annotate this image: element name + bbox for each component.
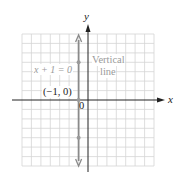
annotation-line: line [100, 66, 116, 78]
point-label: (−1, 0) [42, 86, 73, 98]
y-axis [86, 24, 91, 172]
point-marker [77, 136, 81, 140]
point-marker [77, 60, 81, 64]
y-axis-label: y [84, 10, 89, 22]
equation-label: x + 1 = 0 [33, 64, 73, 75]
annotation-vertical: Vertical [92, 54, 125, 66]
y-axis-arrow-icon [86, 24, 91, 32]
x-axis-label: x [168, 93, 173, 105]
coordinate-plane [0, 0, 179, 176]
origin-label: 0 [79, 100, 84, 112]
x-axis-arrow-icon [157, 98, 165, 103]
